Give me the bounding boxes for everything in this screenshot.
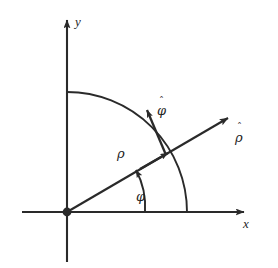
y-axis-label: y: [73, 14, 81, 29]
origin-dot: [63, 208, 72, 217]
figure-canvas: y x ρ φ ˄ φ ˄ ρ: [0, 0, 278, 268]
radius-label: ρ: [116, 146, 125, 161]
rho-hat-label: ρ: [234, 130, 243, 145]
polar-coordinate-figure: y x ρ φ ˄ φ ˄ ρ: [0, 0, 278, 268]
x-axis-label: x: [242, 216, 249, 231]
phi-hat-label: φ: [157, 103, 167, 118]
rho-hat-vector: [140, 153, 168, 169]
angle-label: φ: [136, 189, 146, 204]
